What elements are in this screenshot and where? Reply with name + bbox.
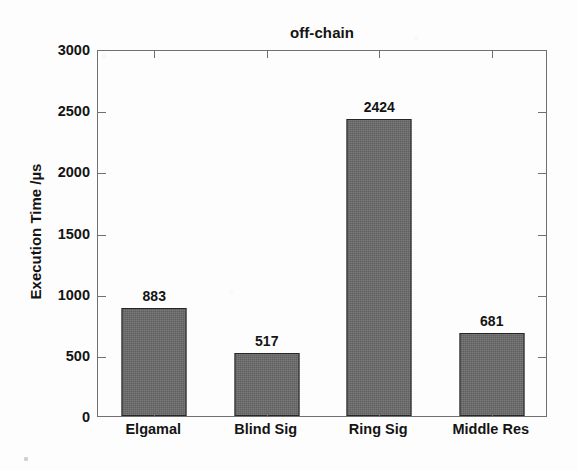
bar-group: 2424: [323, 51, 436, 416]
bars-layer: 8835172424681: [98, 51, 546, 416]
y-axis-tick-label: 0: [82, 409, 90, 425]
bar-blind-sig[interactable]: [234, 353, 299, 416]
y-axis-tick-label: 1000: [58, 287, 90, 303]
y-axis-tick: [98, 173, 106, 174]
y-axis-tick-label: 500: [66, 348, 90, 364]
y-axis-tick-labels: 050010001500200025003000: [27, 50, 90, 417]
y-axis-tick: [538, 296, 546, 297]
y-axis-tick-label: 2000: [58, 164, 90, 180]
y-axis-tick-label: 2500: [58, 103, 90, 119]
y-axis-tick: [538, 357, 546, 358]
bar-middle-res[interactable]: [459, 333, 524, 416]
bar-ring-sig[interactable]: [347, 119, 412, 416]
scan-artifact-speck: [24, 457, 28, 461]
x-axis-tick: [267, 51, 268, 58]
y-axis-tick-label: 1500: [58, 226, 90, 242]
y-axis-tick: [538, 173, 546, 174]
y-axis-tick: [98, 357, 106, 358]
x-axis-category-label: Ring Sig: [349, 421, 408, 437]
x-axis-category-label: Blind Sig: [234, 421, 297, 437]
plot-area: 8835172424681: [97, 50, 547, 417]
chart-title: off-chain: [97, 24, 547, 41]
x-axis-category-label: Elgamal: [125, 421, 181, 437]
x-axis-tick: [267, 409, 268, 416]
x-axis-tick: [492, 409, 493, 416]
x-axis-tick: [379, 409, 380, 416]
y-axis-tick-label: 3000: [58, 42, 90, 58]
bar-value-label: 2424: [364, 99, 395, 115]
bar-value-label: 681: [480, 313, 503, 329]
x-axis-tick-labels: ElgamalBlind SigRing SigMiddle Res: [97, 421, 547, 447]
y-axis-tick: [538, 112, 546, 113]
y-axis-tick: [98, 296, 106, 297]
x-axis-tick: [379, 51, 380, 58]
figure-canvas: off-chain Execution Time /µs 05001000150…: [0, 0, 578, 470]
y-axis-tick: [98, 112, 106, 113]
y-axis-tick: [98, 235, 106, 236]
bar-group: 517: [211, 51, 324, 416]
bar-value-label: 883: [143, 288, 166, 304]
bar-value-label: 517: [255, 333, 278, 349]
x-axis-tick: [492, 51, 493, 58]
bar-group: 681: [436, 51, 549, 416]
x-axis-tick: [154, 51, 155, 58]
y-axis-tick: [538, 235, 546, 236]
x-axis-category-label: Middle Res: [452, 421, 529, 437]
bar-group: 883: [98, 51, 211, 416]
bar-elgamal[interactable]: [122, 308, 187, 416]
x-axis-tick: [154, 409, 155, 416]
